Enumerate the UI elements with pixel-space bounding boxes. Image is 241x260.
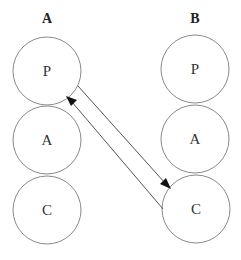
node-b-a-label: A — [190, 131, 201, 147]
column-b: P A C — [161, 35, 230, 243]
node-a-c-label: C — [42, 202, 52, 218]
node-a-p-label: P — [43, 63, 51, 79]
diagram-canvas: A B P A C P A C — [0, 0, 241, 260]
node-a-a-label: A — [42, 132, 53, 148]
node-b-p-label: P — [191, 61, 199, 77]
column-title-b: B — [190, 11, 199, 26]
edge-bc-to-ap — [66, 96, 163, 209]
column-title-a: A — [42, 11, 53, 26]
arrow-line-up-left — [72, 102, 163, 209]
edge-ap-to-bc — [78, 86, 171, 189]
node-b-c-label: C — [191, 201, 201, 217]
arrowhead-up-left-icon — [66, 96, 77, 106]
column-a: P A C — [13, 37, 81, 244]
arrow-line-down-right — [78, 86, 165, 183]
